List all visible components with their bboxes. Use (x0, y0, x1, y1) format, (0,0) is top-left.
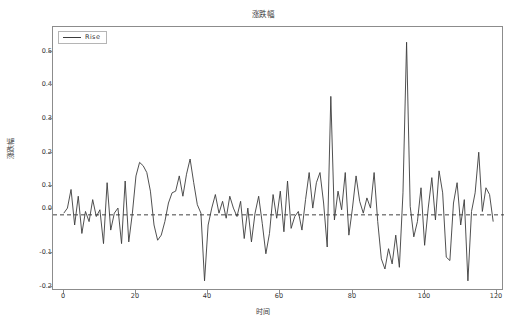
x-tick-label: 40 (187, 293, 227, 300)
page-title: 涨跌幅 (0, 8, 526, 19)
legend-line-swatch (63, 37, 81, 38)
chart-figure: 涨跌幅 0.5 0.4 0.3 0.2 0.1 0.0 -0.1 -0.2 涨跌… (0, 0, 526, 329)
x-tick-label: 120 (476, 293, 516, 300)
x-axis-title: 时间 (0, 306, 526, 316)
plot-area (52, 26, 503, 290)
x-tick-label: 60 (259, 293, 299, 300)
legend: Rise (58, 31, 107, 44)
x-tick-label: 20 (115, 293, 155, 300)
legend-item-label: Rise (85, 34, 100, 41)
x-tick-label: 80 (332, 293, 372, 300)
y-axis-title: 涨跌幅 (5, 118, 15, 178)
series-rise-line (53, 27, 504, 291)
x-tick-label: 100 (404, 293, 444, 300)
data-polyline (64, 42, 493, 281)
x-tick-label: 0 (43, 293, 83, 300)
